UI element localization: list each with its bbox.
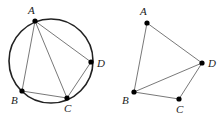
vertex-A <box>144 20 149 25</box>
vertex-A <box>32 18 37 23</box>
vertex-B <box>19 88 24 93</box>
segment-BC <box>134 92 179 99</box>
segment-AB <box>22 21 35 91</box>
vertex-D <box>199 60 204 65</box>
vertex-C <box>176 96 181 101</box>
vertex-C <box>64 95 69 100</box>
segment-CD <box>179 63 202 99</box>
segment-BD <box>134 63 202 92</box>
vertex-label-B: B <box>11 94 18 106</box>
vertex-label-C: C <box>176 103 184 115</box>
segment-DA <box>147 23 202 63</box>
segment-AB <box>134 23 147 92</box>
vertex-label-C: C <box>64 102 72 114</box>
vertex-label-D: D <box>96 57 105 69</box>
vertex-B <box>131 89 136 94</box>
vertex-label-A: A <box>27 4 35 16</box>
vertex-label-B: B <box>122 94 129 106</box>
vertex-D <box>88 59 93 64</box>
vertex-label-D: D <box>207 57 216 69</box>
cyclic-quadrilateral-figure: ABCD <box>9 4 105 114</box>
geometry-diagram: ABCDABCD <box>0 0 221 117</box>
vertex-label-A: A <box>139 5 147 17</box>
quadrilateral-figure: ABCD <box>122 5 216 115</box>
